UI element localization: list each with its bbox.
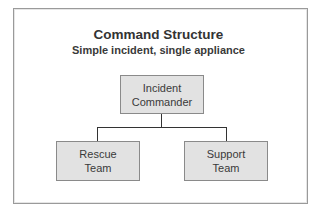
node-label-line1: Rescue: [79, 147, 116, 161]
node-label-line2: Commander: [132, 95, 193, 109]
node-label-line1: Incident: [143, 81, 182, 95]
node-label-line1: Support: [207, 147, 246, 161]
connector-to-rescue: [97, 127, 98, 141]
node-label-line2: Team: [85, 161, 112, 175]
connector-to-support: [226, 127, 227, 141]
node-label-line2: Team: [213, 161, 240, 175]
diagram-title: Command Structure: [0, 27, 317, 42]
node-rescue-team: Rescue Team: [56, 141, 140, 181]
connector-horizontal: [97, 127, 227, 128]
connector-commander-down: [161, 114, 162, 128]
node-support-team: Support Team: [184, 141, 268, 181]
diagram-subtitle: Simple incident, single appliance: [0, 44, 317, 56]
node-incident-commander: Incident Commander: [120, 75, 204, 114]
